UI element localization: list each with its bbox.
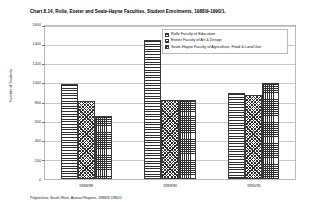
y-tick-label: 800 — [35, 101, 41, 105]
legend-label: Rolle Faculty of Education — [171, 33, 215, 37]
bar — [95, 116, 112, 179]
y-tick-label: 200 — [35, 159, 41, 163]
y-tick-label: 0 — [39, 178, 41, 182]
bar — [228, 93, 245, 179]
legend-swatch-icon — [165, 33, 169, 37]
legend-swatch-icon — [165, 45, 169, 49]
bar — [262, 83, 279, 179]
legend-label: Exeter Faculty of Art & Design — [171, 39, 222, 43]
bar — [245, 95, 262, 179]
chart-figure: Chart 8.14, Rolle, Exeter and Seale-Hayn… — [0, 0, 309, 214]
bar — [61, 84, 78, 179]
y-tick-label: 1600 — [33, 23, 41, 27]
y-axis-tick-labels: 1600 1400 1200 1000 800 600 400 200 0 — [20, 25, 41, 180]
y-tick-label: 1000 — [33, 81, 41, 85]
legend-swatch-icon — [165, 39, 169, 43]
bar — [144, 40, 161, 179]
x-tick-label: 1989/90 — [163, 183, 177, 188]
x-tick-label: 1990/91 — [247, 183, 261, 188]
x-tick-label: 1988/89 — [79, 183, 93, 188]
bar — [78, 101, 95, 179]
bar — [161, 100, 178, 179]
source-note: Polytechnic South West, Annual Reports, … — [30, 196, 122, 200]
y-tick-label: 1400 — [33, 42, 41, 46]
y-axis-title: Number of Students — [9, 69, 13, 102]
bar — [179, 100, 196, 179]
chart-legend: Rolle Faculty of Education Exeter Facult… — [162, 29, 288, 54]
y-tick-label: 400 — [35, 139, 41, 143]
legend-label: Seale-Hayne Faculty of Agriculture, Food… — [171, 46, 261, 50]
legend-item-seale-hayne: Seale-Hayne Faculty of Agriculture, Food… — [165, 44, 285, 50]
y-tick-label: 1200 — [33, 62, 41, 66]
chart-title: Chart 8.14, Rolle, Exeter and Seale-Hayn… — [30, 9, 298, 14]
y-tick-label: 600 — [35, 120, 41, 124]
